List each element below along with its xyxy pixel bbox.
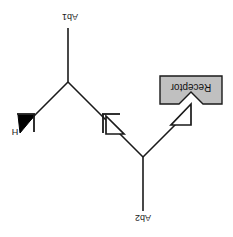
ab1-label: Ab1 [57,12,83,21]
ab1-antibody [30,28,106,120]
hormone-label: H [9,127,21,136]
ab2-right-arm-line [143,122,178,157]
diagram-svg [0,0,233,237]
ab2-left-binding-site [106,116,124,134]
receptor-label: Receptor [163,82,219,92]
ab2-label: Ab2 [130,213,156,222]
ab2-right-open-arrowhead-icon [171,104,191,125]
ab2-antibody [114,122,178,211]
ab1-right-arm-line [68,82,106,120]
diagram-canvas: Ab1 Ab2 H Receptor [0,0,233,237]
ab2-right-binding-site [171,104,191,125]
ab1-left-arm-line [30,82,68,120]
ab2-left-open-arrowhead-icon [106,116,124,134]
